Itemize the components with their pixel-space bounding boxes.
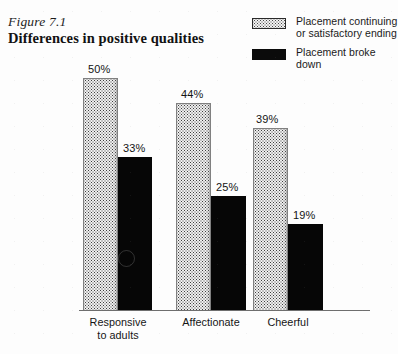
bar-value-cheerful-continuing: 39% [256, 113, 278, 125]
category-label-responsive: Responsive to adults [76, 316, 160, 341]
bar-affectionate-broke-down [211, 196, 246, 311]
category-label-affectionate-line1: Affectionate [182, 316, 239, 328]
bar-value-responsive-broke-down: 33% [123, 142, 145, 154]
category-label-responsive-line1: Responsive [90, 316, 147, 328]
bar-cheerful-continuing [253, 128, 288, 311]
category-label-affectionate: Affectionate [169, 316, 253, 329]
category-label-responsive-line2: to adults [97, 329, 138, 341]
category-label-cheerful: Cheerful [246, 316, 330, 329]
bar-value-responsive-continuing: 50% [88, 63, 110, 75]
bar-cheerful-broke-down [288, 224, 323, 311]
category-label-cheerful-line1: Cheerful [267, 316, 308, 328]
figure-page: Figure 7.1 Differences in positive quali… [0, 0, 398, 354]
bar-affectionate-continuing [176, 103, 211, 311]
bar-value-affectionate-continuing: 44% [181, 88, 203, 100]
bar-value-cheerful-broke-down: 19% [293, 209, 315, 221]
bar-value-affectionate-broke-down: 25% [216, 181, 238, 193]
bar-responsive-broke-down [118, 157, 152, 311]
bar-responsive-continuing [83, 78, 118, 311]
bar-chart-plot-area: 50% 33% Responsive to adults 44% 25% Aff… [0, 0, 398, 354]
x-axis-baseline [79, 310, 370, 311]
